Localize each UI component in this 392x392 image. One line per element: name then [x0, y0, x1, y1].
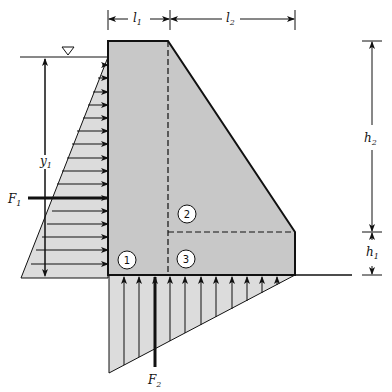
- region-marker-2: 2: [178, 205, 196, 223]
- l1-label: l1: [133, 11, 142, 27]
- region-marker-1: 1: [118, 251, 136, 269]
- l2-label: l2: [226, 11, 235, 27]
- svg-text:2: 2: [184, 209, 190, 220]
- svg-text:3: 3: [183, 254, 189, 265]
- region-marker-3: 3: [177, 250, 195, 268]
- h1-label: h1: [366, 245, 379, 261]
- water-level-icon: [62, 47, 74, 55]
- h2-label: h2: [364, 131, 377, 147]
- svg-text:1: 1: [124, 255, 130, 266]
- dam-diagram: F1 y1 F2 1 2 3 l1 l2: [0, 0, 392, 392]
- force-f1-label: F1: [7, 192, 21, 208]
- uplift-pressure-distribution: [109, 275, 295, 373]
- water-pressure-distribution: [21, 57, 108, 278]
- dam-body: [108, 41, 295, 275]
- force-f2-label: F2: [147, 373, 161, 389]
